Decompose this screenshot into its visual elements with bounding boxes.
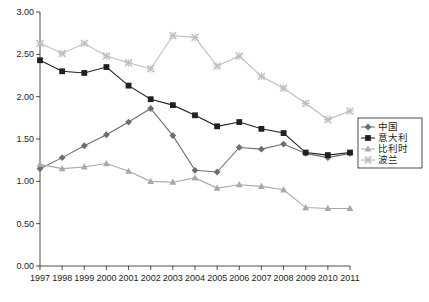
data-point <box>324 116 332 124</box>
y-tick-label: 0.00 <box>16 261 34 271</box>
data-point <box>103 131 110 138</box>
data-point <box>236 181 243 187</box>
data-point <box>325 152 331 158</box>
data-point <box>36 39 44 47</box>
x-tick-label: 2000 <box>96 273 116 283</box>
data-point <box>148 96 154 102</box>
legend-label-1: 意大利 <box>378 132 408 143</box>
data-point <box>347 150 353 156</box>
data-point <box>302 99 310 107</box>
x-tick-label: 2009 <box>296 273 316 283</box>
y-tick-label: 1.00 <box>16 176 34 186</box>
data-point <box>81 142 88 149</box>
x-tick-label: 2004 <box>185 273 205 283</box>
x-tick-label: 2008 <box>274 273 294 283</box>
x-tick-label: 2005 <box>207 273 227 283</box>
data-point <box>257 72 265 80</box>
data-point <box>346 107 354 115</box>
y-tick-label: 3.00 <box>16 7 34 17</box>
data-point <box>59 68 65 74</box>
data-point <box>58 49 66 57</box>
legend-label-0: 中国 <box>378 121 398 132</box>
data-point <box>125 119 132 126</box>
y-tick-label: 2.00 <box>16 92 34 102</box>
data-point <box>147 65 155 73</box>
data-point <box>192 174 199 180</box>
data-point <box>235 52 243 60</box>
x-tick-label: 2001 <box>119 273 139 283</box>
data-point <box>364 156 372 164</box>
data-point <box>236 119 242 125</box>
data-point <box>191 33 199 41</box>
data-point <box>37 161 44 167</box>
data-point <box>81 70 87 76</box>
data-point <box>37 57 43 63</box>
x-tick-label: 2007 <box>251 273 271 283</box>
y-tick-label: 2.50 <box>16 49 34 59</box>
y-tick-label: 1.50 <box>16 134 34 144</box>
data-point <box>303 150 309 156</box>
legend-label-3: 波兰 <box>378 154 398 165</box>
data-point <box>103 160 110 166</box>
data-point <box>59 154 66 161</box>
data-point <box>302 204 309 210</box>
data-point <box>280 84 288 92</box>
data-point <box>102 52 110 60</box>
x-tick-label: 2002 <box>141 273 161 283</box>
data-point <box>365 135 371 141</box>
x-tick-label: 1997 <box>30 273 50 283</box>
data-point <box>169 32 177 40</box>
data-point <box>170 102 176 108</box>
data-point <box>126 83 132 89</box>
y-tick-label: 0.50 <box>16 219 34 229</box>
x-tick-label: 2006 <box>229 273 249 283</box>
data-point <box>280 141 287 148</box>
data-point <box>80 39 88 47</box>
data-point <box>192 112 198 118</box>
series-line-3 <box>40 36 350 120</box>
x-tick-label: 2003 <box>163 273 183 283</box>
data-point <box>214 123 220 129</box>
x-tick-label: 2010 <box>318 273 338 283</box>
data-point <box>281 130 287 136</box>
line-chart: 0.000.501.001.502.002.503.00199719981999… <box>0 0 429 302</box>
data-point <box>213 62 221 70</box>
x-tick-label: 1998 <box>52 273 72 283</box>
x-tick-label: 2011 <box>340 273 359 283</box>
legend-label-2: 比利时 <box>378 143 408 154</box>
data-point <box>125 59 133 67</box>
data-point <box>104 64 110 70</box>
data-point <box>192 167 199 174</box>
chart-container: 0.000.501.001.502.002.503.00199719981999… <box>0 0 429 302</box>
data-point <box>259 126 265 132</box>
data-point <box>258 146 265 153</box>
x-tick-label: 1999 <box>74 273 94 283</box>
